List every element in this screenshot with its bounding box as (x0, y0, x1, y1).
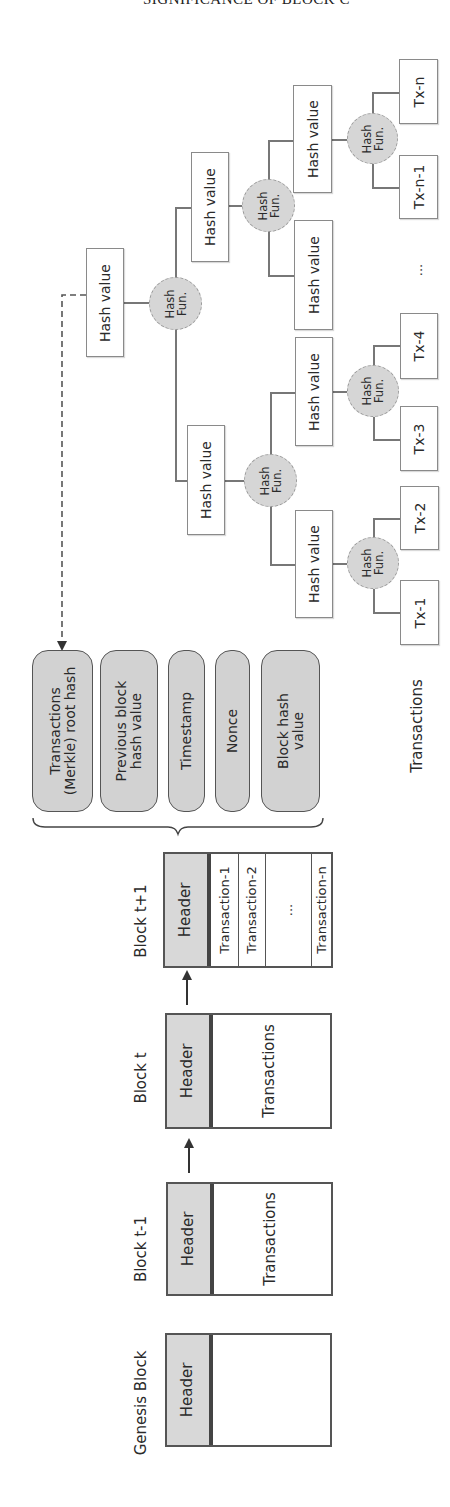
field-label: (Merkle) root hash (62, 667, 78, 796)
block-transactions-area: Transactions (260, 1184, 282, 1294)
transactions-label: Transactions (263, 1192, 279, 1286)
block-header: Header (167, 1015, 213, 1127)
transaction-cell: ... (265, 854, 312, 966)
header-field-timestamp: Timestamp (168, 650, 205, 812)
field-label: Timestamp (179, 692, 194, 770)
block-header-label: Header (180, 1363, 196, 1418)
field-label: Transactions (46, 687, 62, 774)
block-transactions-area: Transactions (259, 1015, 281, 1127)
block-t-plus-1: Header Transaction-1 Transaction-2 ... T… (163, 852, 333, 968)
block-header: Header (167, 1335, 213, 1445)
block-header: Header (165, 854, 211, 966)
field-label: Nonce (225, 709, 240, 753)
transaction-cell: Transaction-1 (211, 854, 239, 966)
transaction-label: Transaction-2 (245, 866, 259, 953)
block-header-label: Header (181, 1212, 197, 1267)
block-label: Genesis Block (132, 1343, 152, 1463)
header-field-merkle-root: Transactions(Merkle) root hash (32, 650, 93, 812)
block-label-text: Block t-1 (134, 1216, 150, 1282)
block-label-text: Genesis Block (134, 1351, 150, 1456)
transaction-label: Transaction-1 (218, 866, 232, 953)
block-label-text: Block t (134, 1052, 150, 1103)
field-label: value (290, 712, 306, 750)
field-label: Previous block (113, 681, 129, 782)
block-header-label: Header (180, 1044, 196, 1099)
field-label: hash value (128, 693, 144, 769)
transactions-label: Transactions (262, 1024, 278, 1118)
block-t-minus-1: Header Transactions (166, 1182, 333, 1296)
genesis-block: Header (165, 1333, 332, 1447)
transaction-cell: Transaction-n (311, 854, 333, 966)
transaction-cell: Transaction-2 (238, 854, 266, 966)
block-label: Block t-1 (132, 1212, 152, 1286)
block-header-label: Header (178, 883, 194, 938)
field-label: Block hash (274, 693, 290, 769)
block-label-text: Block t+1 (134, 884, 150, 957)
block-t: Header Transactions (165, 1013, 332, 1129)
header-field-block-hash: Block hashvalue (261, 650, 320, 812)
header-field-nonce: Nonce (215, 650, 250, 812)
block-header: Header (168, 1184, 214, 1294)
transaction-label: ... (281, 904, 295, 916)
header-field-previous-hash: Previous blockhash value (100, 650, 158, 812)
block-label: Block t+1 (132, 875, 152, 967)
block-label: Block t (132, 1050, 152, 1106)
transaction-label: Transaction-n (315, 866, 329, 953)
